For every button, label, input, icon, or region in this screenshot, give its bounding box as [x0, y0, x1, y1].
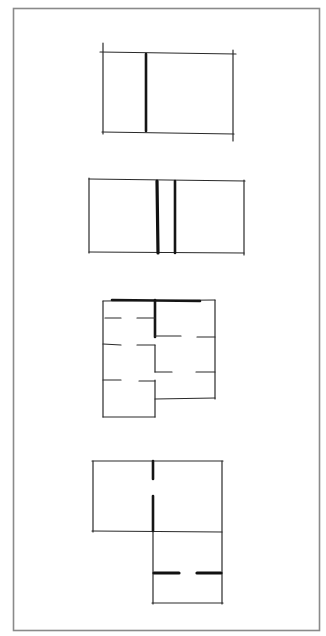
sketch-4 [92, 461, 223, 604]
sketch-4-middle-wall [92, 531, 222, 532]
page-frame [14, 9, 320, 631]
sketch-1-bottom-wall [102, 132, 234, 134]
sketch-2 [89, 178, 245, 255]
drawing-canvas [0, 0, 326, 636]
sketch-2-top-wall [89, 179, 245, 181]
sketch-3 [103, 300, 215, 417]
sketch-2-bottom-wall [89, 252, 244, 253]
sketch-2-partition-wall-left [157, 181, 158, 253]
sketch-1 [100, 43, 236, 141]
sketch-3-bottom-right-wall [155, 398, 215, 399]
sketch-1-top-wall [100, 52, 236, 54]
sketch-3-left-dash-2a [103, 344, 121, 345]
